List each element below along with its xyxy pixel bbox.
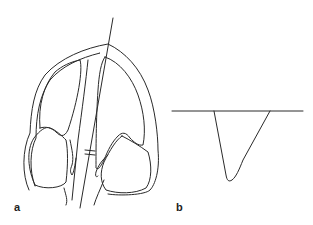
panel-a-drawing [24,18,159,208]
left-lower-chamber [29,127,68,187]
left-septal-projection [64,140,76,205]
outer-outline [24,44,159,195]
panel-label-a: a [14,201,20,213]
panel-label-b: b [176,201,183,213]
figure-canvas [0,0,313,225]
panel-b-drawing [172,111,303,181]
tick-mark-1 [85,150,95,151]
tick-mark-2 [85,154,95,155]
left-upper-chamber [40,60,81,136]
inner-outline [31,53,100,186]
trough-profile [214,111,270,181]
